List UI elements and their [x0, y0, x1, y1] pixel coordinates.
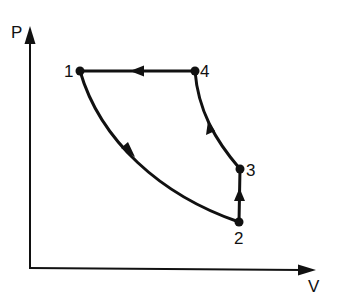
- y-axis-arrow-icon: [25, 26, 36, 44]
- x-axis-arrow-icon: [298, 265, 316, 276]
- path-1-to-2: [80, 71, 239, 222]
- x-axis: [29, 268, 302, 270]
- points: [76, 67, 245, 227]
- direction-arrows: [121, 66, 245, 202]
- arrow-left-icon: [130, 66, 144, 77]
- point-3: [236, 165, 245, 174]
- point-2-label: 2: [234, 229, 243, 248]
- pv-diagram: P V 1 4 3 2: [0, 0, 337, 304]
- point-1-label: 1: [64, 62, 73, 81]
- point-1: [76, 67, 85, 76]
- point-2: [235, 218, 244, 227]
- point-4: [191, 67, 200, 76]
- cycle: [80, 71, 240, 222]
- y-axis-label: P: [11, 23, 22, 42]
- point-3-label: 3: [246, 161, 255, 180]
- arrow-up-icon: [234, 188, 245, 201]
- point-4-label: 4: [200, 62, 209, 81]
- path-3-to-4: [195, 71, 240, 169]
- x-axis-label: V: [308, 277, 320, 296]
